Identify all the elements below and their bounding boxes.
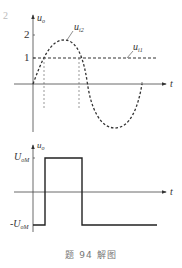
bottom-chart <box>14 145 166 232</box>
uom-neg-main: -U <box>10 218 21 229</box>
label-ui2-sub: i2 <box>79 27 84 33</box>
label-ui1-sub: i1 <box>138 47 143 53</box>
uom-neg-sub: oM <box>21 224 29 230</box>
top-y-axis-label: uo <box>37 12 45 24</box>
tick-label-2: 2 <box>24 28 30 40</box>
label-ui2: ui2 <box>74 21 84 33</box>
top-y-label-sub: o <box>42 18 45 24</box>
bottom-y-label-sub: o <box>42 145 45 151</box>
label-uom-pos: UoM <box>14 151 29 163</box>
bottom-x-axis-label: t <box>170 186 173 197</box>
corner-mark: 2 <box>3 10 8 21</box>
label-uom-neg: -UoM <box>10 218 29 230</box>
tick-label-1: 1 <box>24 51 30 63</box>
leader-ui2 <box>67 31 73 40</box>
label-ui1: ui1 <box>133 41 143 53</box>
uom-pos-sub: oM <box>21 157 29 163</box>
figure-caption: 题 94 解图 <box>0 248 182 261</box>
bottom-y-axis-label: uo <box>37 140 45 151</box>
top-x-axis-label: t <box>170 78 173 89</box>
top-chart <box>14 15 166 132</box>
series-uo <box>33 158 157 225</box>
